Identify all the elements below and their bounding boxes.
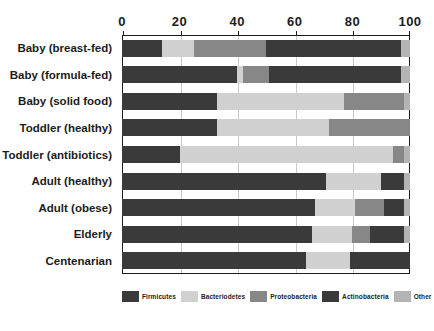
legend-item: Proteobacteria — [250, 291, 317, 302]
legend-swatch-other — [394, 291, 411, 302]
bar-segment-proteobacteria — [243, 66, 269, 83]
bar-segment-actinobacteria — [381, 173, 404, 190]
legend-label: Actinobacteria — [342, 293, 389, 300]
bar-segment-actinobacteria — [266, 40, 401, 57]
bar-segment-other — [404, 199, 410, 216]
legend-label: Bacteriodetes — [201, 293, 245, 300]
category-label: Baby (breast-fed) — [17, 42, 118, 54]
bar-segment-other — [404, 226, 410, 243]
bar-segment-other — [404, 93, 410, 110]
bar-row — [122, 173, 410, 190]
x-axis-labels: 020406080100 — [0, 14, 434, 30]
bar-row — [122, 40, 410, 57]
legend-swatch-proteobacteria — [250, 291, 267, 302]
legend-swatch-firmicutes — [122, 291, 139, 302]
bar-segment-proteobacteria — [329, 119, 410, 136]
category-label: Baby (solid food) — [18, 95, 118, 107]
legend-swatch-actinobacteria — [322, 291, 339, 302]
x-tick-label-40: 40 — [229, 14, 244, 29]
bar-row — [122, 66, 410, 83]
bar-segment-bacteriodetes — [162, 40, 194, 57]
bar-segment-bacteriodetes — [217, 119, 329, 136]
legend-label: Proteobacteria — [270, 293, 317, 300]
bar-row — [122, 252, 410, 269]
legend-label: Other — [414, 293, 432, 300]
bar-segment-proteobacteria — [355, 199, 384, 216]
bar-row — [122, 93, 410, 110]
category-label: Toddler (healthy) — [20, 122, 118, 134]
x-tick-label-100: 100 — [398, 14, 421, 29]
bar-segment-proteobacteria — [344, 93, 404, 110]
bar-segment-firmicutes — [122, 252, 306, 269]
chart-legend: FirmicutesBacteriodetesProteobacteriaAct… — [122, 288, 412, 304]
legend-label: Firmicutes — [142, 293, 176, 300]
legend-item: Actinobacteria — [322, 291, 389, 302]
bar-segment-firmicutes — [122, 226, 312, 243]
legend-item: Other — [394, 291, 432, 302]
bar-segment-firmicutes — [122, 119, 217, 136]
bar-segment-proteobacteria — [393, 146, 405, 163]
legend-item: Firmicutes — [122, 291, 176, 302]
bar-segment-bacteriodetes — [326, 173, 381, 190]
bar-row — [122, 226, 410, 243]
bar-segment-bacteriodetes — [315, 199, 355, 216]
legend-swatch-bacteriodetes — [181, 291, 198, 302]
category-label: Baby (formula-fed) — [10, 69, 118, 81]
bar-segment-proteobacteria — [194, 40, 266, 57]
x-tick-label-80: 80 — [345, 14, 360, 29]
bar-segment-actinobacteria — [269, 66, 401, 83]
x-tick-label-0: 0 — [118, 14, 126, 29]
bar-row — [122, 199, 410, 216]
bar-segment-bacteriodetes — [312, 226, 352, 243]
bar-row — [122, 119, 410, 136]
bar-segment-firmicutes — [122, 93, 217, 110]
bar-segment-actinobacteria — [370, 226, 405, 243]
bar-segment-firmicutes — [122, 40, 162, 57]
bar-segment-actinobacteria — [350, 252, 410, 269]
bar-segment-firmicutes — [122, 199, 315, 216]
bar-segment-bacteriodetes — [217, 93, 344, 110]
x-tick-label-20: 20 — [172, 14, 187, 29]
bar-segment-proteobacteria — [352, 226, 369, 243]
bar-segment-actinobacteria — [384, 199, 404, 216]
x-tick-label-60: 60 — [287, 14, 302, 29]
bars-layer — [122, 35, 410, 274]
category-label: Adult (obese) — [39, 202, 118, 214]
legend-item: Bacteriodetes — [181, 291, 245, 302]
bar-segment-other — [404, 173, 410, 190]
bar-row — [122, 146, 410, 163]
bar-segment-firmicutes — [122, 173, 326, 190]
bar-segment-other — [401, 66, 410, 83]
bar-segment-firmicutes — [122, 66, 237, 83]
category-label: Elderly — [74, 228, 118, 240]
category-label: Adult (healthy) — [32, 175, 119, 187]
category-label: Centenarian — [46, 255, 118, 267]
bar-segment-firmicutes — [122, 146, 180, 163]
stacked-bar-chart: 020406080100 Baby (breast-fed)Baby (form… — [0, 0, 434, 331]
category-label: Toddler (antibiotics) — [2, 149, 118, 161]
bar-segment-other — [404, 146, 410, 163]
bar-segment-bacteriodetes — [180, 146, 393, 163]
bar-segment-bacteriodetes — [306, 252, 349, 269]
bar-segment-other — [401, 40, 410, 57]
y-axis-category-labels: Baby (breast-fed)Baby (formula-fed)Baby … — [0, 35, 118, 274]
